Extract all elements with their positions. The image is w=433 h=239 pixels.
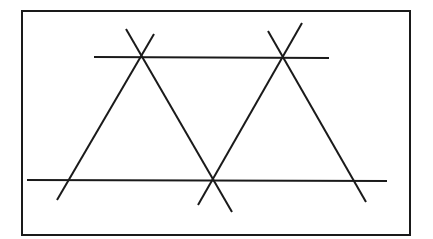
left-triangle-left-side	[57, 34, 154, 200]
right-triangle-left-side	[198, 23, 302, 205]
horizontal-lines	[27, 57, 387, 181]
bottom-horizontal-line	[27, 180, 387, 181]
top-horizontal-line	[94, 57, 329, 58]
diagram-canvas	[0, 0, 433, 239]
right-triangle-right-side	[268, 31, 366, 202]
two-triangles-diagram	[0, 0, 433, 239]
frame-rectangle	[22, 11, 410, 235]
slanted-lines	[57, 23, 366, 212]
